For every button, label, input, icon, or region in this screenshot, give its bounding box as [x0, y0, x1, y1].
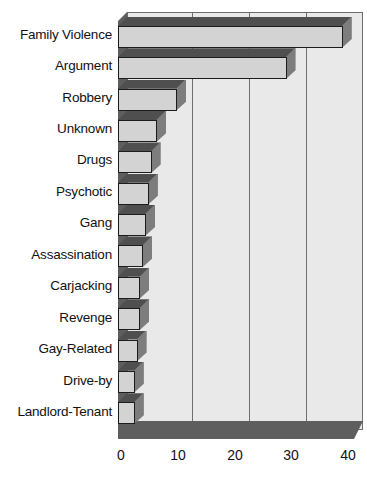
axis-floor	[118, 421, 363, 439]
category-label: Psychotic	[56, 184, 112, 199]
bar-front-face	[118, 57, 287, 79]
bar-revenge	[118, 299, 149, 330]
bar-gay-related	[118, 331, 147, 362]
bar-gang	[118, 205, 155, 236]
category-label: Argument	[55, 58, 112, 73]
bar-front-face	[118, 371, 135, 393]
bar-unknown	[118, 111, 166, 142]
bar-drugs	[118, 142, 161, 173]
category-label: Assassination	[31, 247, 112, 262]
xtick-label: 30	[283, 447, 299, 463]
bar-psychotic	[118, 174, 158, 205]
category-label: Carjacking	[50, 278, 112, 293]
xtick-label: 10	[170, 447, 186, 463]
xtick-label: 20	[227, 447, 243, 463]
category-label: Landlord-Tenant	[17, 404, 112, 419]
bar-family-violence	[118, 17, 352, 48]
bar-landlord-tenant	[118, 393, 144, 424]
bar-front-face	[118, 245, 143, 267]
category-label: Unknown	[57, 121, 112, 136]
bar-robbery	[118, 80, 186, 111]
bar-front-face	[118, 26, 343, 48]
xtick-label: 0	[117, 447, 125, 463]
bar-front-face	[118, 402, 135, 424]
bar-front-face	[118, 214, 146, 236]
category-label: Family Violence	[20, 27, 112, 42]
bar-front-face	[118, 120, 157, 142]
bar-front-face	[118, 89, 177, 111]
xtick-label: 40	[340, 447, 356, 463]
bar-front-face	[118, 151, 152, 173]
bar-front-face	[118, 277, 140, 299]
category-label: Revenge	[59, 310, 112, 325]
bar-chart: Family Violence Argument Robbery Unknown…	[0, 0, 367, 479]
category-label: Drive-by	[63, 373, 112, 388]
category-label: Gay-Related	[38, 341, 112, 356]
bar-front-face	[118, 308, 140, 330]
bar-carjacking	[118, 268, 149, 299]
category-label: Robbery	[62, 90, 112, 105]
bar-assassination	[118, 236, 152, 267]
bar-top-face	[118, 48, 298, 57]
bar-front-face	[118, 340, 138, 362]
bar-drive-by	[118, 362, 144, 393]
category-label: Gang	[80, 215, 112, 230]
bar-top-face	[118, 17, 354, 26]
bar-argument	[118, 48, 296, 79]
gridline-40	[362, 12, 363, 430]
category-label: Drugs	[77, 152, 112, 167]
bar-front-face	[118, 183, 149, 205]
gridline-30	[306, 12, 307, 430]
